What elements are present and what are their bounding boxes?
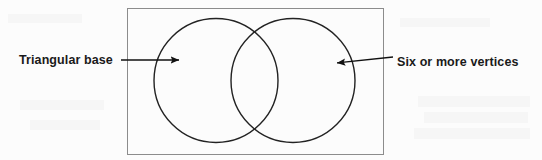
venn-diagram-figure: Triangular base Six or more vertices <box>0 0 542 160</box>
left-set-circle <box>154 19 278 143</box>
right-arrow <box>337 57 393 63</box>
right-set-label: Six or more vertices <box>397 56 519 69</box>
right-set-circle <box>231 19 355 143</box>
left-set-label: Triangular base <box>19 54 113 67</box>
venn-diagram-canvas <box>0 0 542 160</box>
